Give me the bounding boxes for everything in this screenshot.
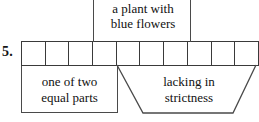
grid-cell[interactable]	[117, 42, 141, 65]
grid-cell[interactable]	[212, 42, 236, 65]
answer-grid[interactable]	[21, 41, 259, 66]
grid-cell[interactable]	[22, 42, 46, 65]
grid-cell[interactable]	[69, 42, 93, 65]
grid-cell[interactable]	[46, 42, 70, 65]
worksheet-puzzle-item: 5. a plant with blue flowers one of two …	[0, 0, 259, 122]
clue-text-right: lacking in strictness	[143, 74, 235, 106]
item-number-label: 5.	[2, 45, 13, 59]
grid-cell[interactable]	[164, 42, 188, 65]
grid-cell[interactable]	[235, 42, 259, 65]
grid-cell[interactable]	[140, 42, 164, 65]
clue-text-left: one of two equal parts	[22, 74, 117, 106]
grid-cell[interactable]	[188, 42, 212, 65]
clue-text-top: a plant with blue flowers	[98, 1, 188, 31]
grid-cell[interactable]	[93, 42, 117, 65]
